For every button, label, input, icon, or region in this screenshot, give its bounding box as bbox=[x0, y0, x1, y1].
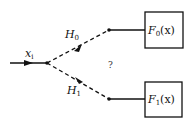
decision-mark: ? bbox=[108, 60, 113, 70]
branch-h0-label: H0 bbox=[64, 28, 79, 42]
branch-h1-label: H1 bbox=[66, 84, 81, 98]
box-f1-label: F1(x) bbox=[147, 93, 175, 107]
input-arrow bbox=[10, 60, 47, 66]
hypothesis-diagram: xi H0 H1 ? F0(x) F1(x) bbox=[0, 0, 194, 126]
box-f0-label: F0(x) bbox=[147, 24, 175, 38]
input-label: xi bbox=[25, 47, 34, 61]
